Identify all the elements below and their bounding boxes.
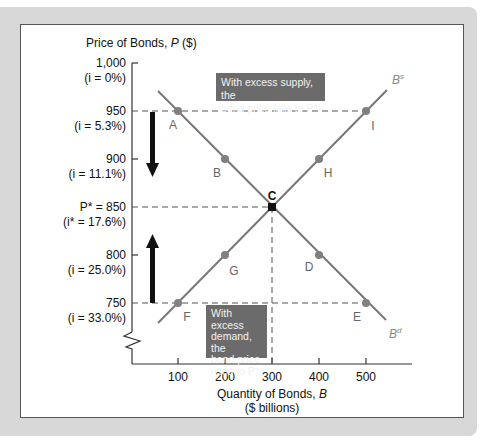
svg-text:100: 100	[168, 370, 188, 384]
svg-text:300: 300	[262, 370, 282, 384]
x-axis-title: Quantity of Bonds, B	[217, 387, 327, 401]
svg-text:B: B	[213, 166, 221, 180]
demand-curve-label: Bd	[389, 326, 402, 341]
excess-supply-note: With excess supply, the bond price falls…	[216, 73, 325, 101]
y-tick-labels: 1,000 (i = 0%) 950 (i = 5.3%) 900 (i = 1…	[63, 56, 126, 325]
svg-text:1,000: 1,000	[96, 56, 126, 70]
svg-text:E: E	[353, 310, 361, 324]
svg-text:G: G	[229, 264, 238, 278]
svg-text:D: D	[305, 260, 314, 274]
svg-text:400: 400	[309, 370, 329, 384]
excess-demand-note: With excess demand, the bond price rises…	[206, 305, 267, 358]
y-axis-title: Price of Bonds, P ($)	[86, 36, 197, 50]
svg-text:750: 750	[106, 296, 126, 310]
supply-curve-label: Bs	[392, 72, 404, 87]
point-B	[221, 155, 229, 163]
point-label-C: C	[268, 189, 277, 203]
svg-text:P* = 850: P* = 850	[80, 200, 127, 214]
svg-text:950: 950	[106, 104, 126, 118]
svg-text:(i = 5.3%): (i = 5.3%)	[74, 119, 126, 133]
y-ticks	[132, 63, 138, 255]
svg-text:A: A	[169, 118, 177, 132]
svg-text:(i = 25.0%): (i = 25.0%)	[68, 263, 126, 277]
svg-text:H: H	[324, 166, 333, 180]
svg-text:I: I	[371, 119, 374, 133]
svg-text:(i = 33.0%): (i = 33.0%)	[68, 311, 126, 325]
svg-text:800: 800	[106, 248, 126, 262]
point-D	[315, 251, 323, 259]
svg-text:(i = 0%): (i = 0%)	[84, 71, 126, 85]
point-A	[174, 107, 182, 115]
point-F	[174, 299, 182, 307]
point-I	[362, 107, 370, 115]
svg-text:F: F	[183, 310, 190, 324]
x-axis-subtitle: ($ billions)	[245, 401, 300, 415]
price-rises-arrow-icon	[146, 234, 159, 303]
svg-text:(i = 11.1%): (i = 11.1%)	[69, 167, 126, 181]
svg-text:900: 900	[106, 152, 126, 166]
price-falls-arrow-icon	[146, 112, 159, 177]
equilibrium-point-C	[268, 203, 276, 211]
svg-text:(i* = 17.6%): (i* = 17.6%)	[63, 215, 126, 229]
svg-text:500: 500	[356, 370, 376, 384]
point-E	[362, 299, 370, 307]
axis-break-icon	[124, 332, 140, 364]
point-H	[315, 155, 323, 163]
point-G	[221, 251, 229, 259]
x-tick-labels: 100 200 300 400 500	[168, 370, 376, 384]
